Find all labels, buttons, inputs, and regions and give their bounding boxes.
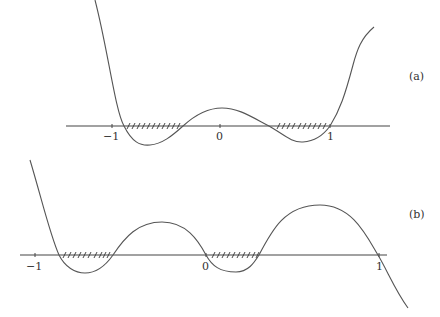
polynomial-sign-diagram	[0, 0, 440, 317]
panel-a-tick-label-minus-1: −1	[103, 131, 119, 142]
panel-a	[66, 0, 390, 145]
panel-b-tick-label-0: 0	[202, 261, 209, 272]
panel-b-tick-label-1: 1	[376, 261, 383, 272]
panel-a-tick-label-0: 0	[216, 131, 223, 142]
panel-a-tick-label-1: 1	[327, 131, 334, 142]
panel-a-curve	[95, 0, 374, 145]
panel-a-label: (a)	[409, 71, 424, 82]
panel-b-curve	[30, 160, 408, 308]
panel-b-label: (b)	[409, 209, 425, 220]
panel-b	[20, 160, 408, 308]
panel-b-tick-label-minus-1: −1	[26, 261, 42, 272]
